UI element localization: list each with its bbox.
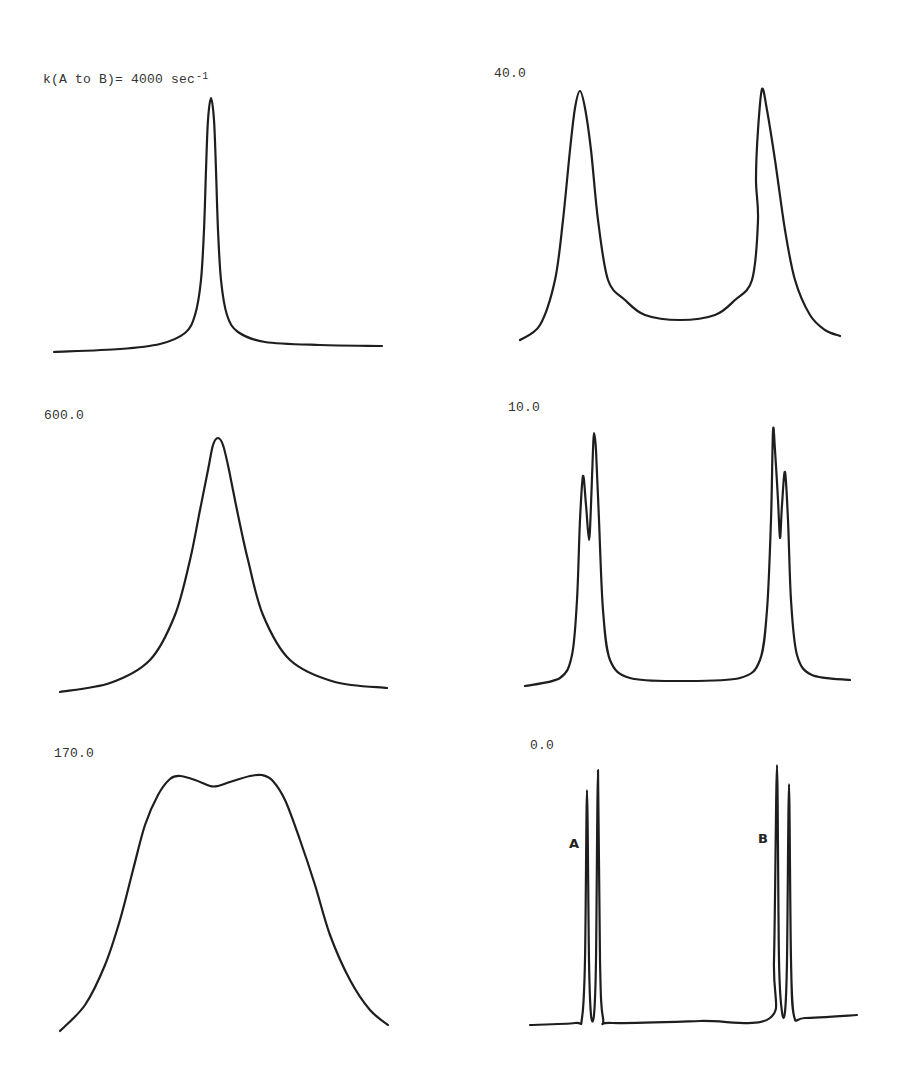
panel-label-k-10: 10.0: [508, 400, 540, 415]
spectra-plot-area: [0, 0, 904, 1091]
spectrum-k-4000: [54, 98, 382, 352]
panel-label-text: 40.0: [494, 66, 526, 81]
panel-label-text: k(A to B)= 4000: [43, 72, 163, 87]
spectrum-k-10: [525, 428, 850, 686]
spectrum-k-40: [520, 89, 840, 340]
panel-label-k-170: 170.0: [54, 746, 94, 761]
peak-label-a-text: A: [569, 836, 579, 851]
spectrum-k-170: [60, 775, 388, 1031]
panel-label-k-4000: k(A to B)= 4000 sec-1: [43, 72, 208, 87]
exchange-lineshape-figure: k(A to B)= 4000 sec-1 40.0 600.0 10.0 17…: [0, 0, 904, 1091]
spectrum-k-0: [530, 765, 857, 1025]
panel-label-text: 0.0: [530, 738, 554, 753]
peak-label-b: B: [758, 831, 768, 846]
peak-label-b-text: B: [758, 831, 768, 846]
rate-unit: sec: [163, 72, 195, 87]
panel-label-text: 10.0: [508, 400, 540, 415]
spectrum-k-600: [60, 438, 387, 692]
peak-label-a: A: [569, 836, 579, 851]
panel-label-k-40: 40.0: [494, 66, 526, 81]
panel-label-text: 600.0: [44, 408, 84, 423]
panel-label-text: 170.0: [54, 746, 94, 761]
panel-label-k-0: 0.0: [530, 738, 554, 753]
panel-label-k-600: 600.0: [44, 408, 84, 423]
rate-unit-exponent: -1: [196, 71, 208, 82]
